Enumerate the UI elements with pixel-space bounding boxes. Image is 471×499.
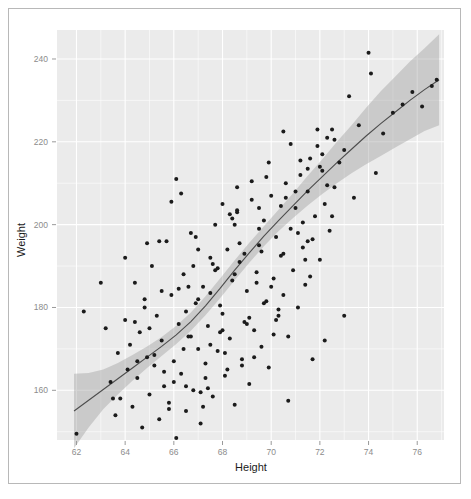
data-point — [211, 395, 215, 399]
y-tick-label: 220 — [34, 137, 48, 147]
data-point — [272, 332, 276, 336]
data-point — [420, 105, 424, 109]
data-point — [313, 214, 317, 218]
data-point — [238, 260, 242, 264]
data-point — [323, 202, 327, 206]
data-point — [337, 161, 341, 165]
data-point — [294, 190, 298, 194]
data-point — [126, 368, 130, 372]
data-point — [172, 359, 176, 363]
data-point — [235, 185, 239, 189]
y-axis-title: Weight — [15, 223, 27, 257]
x-tick-label: 70 — [266, 447, 276, 457]
data-point — [374, 171, 378, 175]
data-point — [315, 127, 319, 131]
data-point — [177, 322, 181, 326]
data-point — [252, 355, 256, 359]
data-point — [199, 421, 203, 425]
data-point — [113, 413, 117, 417]
data-point — [160, 289, 164, 293]
data-point — [286, 399, 290, 403]
data-point — [147, 392, 151, 396]
data-point — [284, 181, 288, 185]
data-point — [165, 239, 169, 243]
x-tick-label: 64 — [120, 447, 130, 457]
data-point — [152, 363, 156, 367]
data-point — [162, 384, 166, 388]
data-point — [206, 324, 210, 328]
data-point — [245, 289, 249, 293]
data-point — [347, 94, 351, 98]
data-point — [318, 258, 322, 262]
data-point — [381, 132, 385, 136]
data-point — [140, 426, 144, 430]
data-point — [123, 256, 127, 260]
data-point — [196, 247, 200, 251]
data-point — [284, 196, 288, 200]
x-tick-label: 62 — [72, 447, 82, 457]
data-point — [194, 235, 198, 239]
data-point — [274, 235, 278, 239]
data-point — [223, 374, 227, 378]
data-point — [189, 231, 193, 235]
data-point — [303, 258, 307, 262]
x-tick-label: 72 — [315, 447, 325, 457]
data-point — [155, 314, 159, 318]
data-point — [184, 310, 188, 314]
data-point — [143, 297, 147, 301]
data-point — [315, 144, 319, 148]
data-point — [143, 305, 147, 309]
data-point — [286, 334, 290, 338]
x-tick-label: 66 — [169, 447, 179, 457]
data-point — [228, 212, 232, 216]
data-point — [191, 388, 195, 392]
data-point — [194, 301, 198, 305]
data-point — [240, 357, 244, 361]
data-point — [255, 281, 259, 285]
data-point — [157, 417, 161, 421]
data-point — [111, 397, 115, 401]
data-point — [298, 158, 302, 162]
x-tick-label: 74 — [364, 447, 374, 457]
data-point — [82, 310, 86, 314]
data-point — [123, 318, 127, 322]
data-point — [169, 200, 173, 204]
data-point — [150, 264, 154, 268]
data-point — [174, 177, 178, 181]
x-tick-label: 68 — [218, 447, 228, 457]
data-point — [233, 272, 237, 276]
data-point — [367, 51, 371, 55]
data-point — [296, 231, 300, 235]
data-point — [308, 156, 312, 160]
data-point — [203, 361, 207, 365]
data-point — [218, 303, 222, 307]
data-point — [135, 376, 139, 380]
data-point — [182, 347, 186, 351]
data-point — [279, 204, 283, 208]
data-point — [342, 314, 346, 318]
data-point — [296, 305, 300, 309]
data-point — [245, 322, 249, 326]
data-point — [116, 351, 120, 355]
data-point — [289, 142, 293, 146]
data-point — [208, 291, 212, 295]
data-point — [160, 339, 164, 343]
data-point — [179, 372, 183, 376]
data-point — [298, 173, 302, 177]
data-point — [109, 380, 113, 384]
data-point — [369, 71, 373, 75]
data-point — [203, 376, 207, 380]
data-point — [240, 363, 244, 367]
data-point — [213, 268, 217, 272]
data-point — [267, 161, 271, 165]
data-point — [221, 202, 225, 206]
data-point — [201, 285, 205, 289]
y-tick-label: 160 — [34, 385, 48, 395]
data-point — [157, 239, 161, 243]
data-point — [269, 285, 273, 289]
data-point — [291, 268, 295, 272]
data-point — [323, 339, 327, 343]
y-tick-label: 180 — [34, 302, 48, 312]
data-point — [352, 196, 356, 200]
data-point — [169, 293, 173, 297]
